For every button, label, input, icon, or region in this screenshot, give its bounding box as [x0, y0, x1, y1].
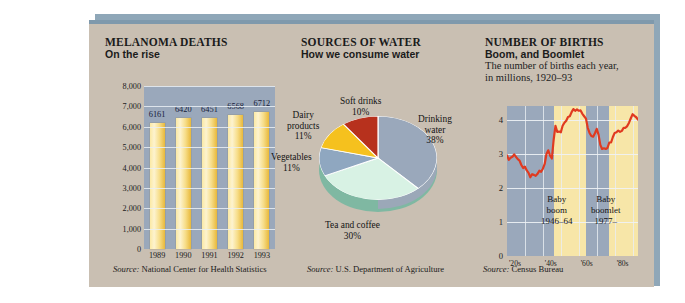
water-label-tea-coffee: Tea and coffee 30% — [325, 220, 380, 241]
births-annotation-baby-boomlet: Baby boomlet 1977– — [591, 194, 621, 227]
births-y-tick: 2 — [481, 183, 503, 193]
water-title: SOURCES OF WATER — [301, 36, 421, 48]
melanoma-bar-chart: 61616420645165686712 01,0002,0003,0004,0… — [103, 78, 279, 264]
water-value-drinking-water: 38% — [426, 135, 443, 145]
melanoma-bar-value: 6161 — [149, 110, 166, 119]
infographic-panel: MELANOMA DEATHS On the rise 616164206451… — [89, 20, 654, 287]
melanoma-y-tick: 6,000 — [103, 122, 141, 131]
melanoma-y-tick: 1,000 — [103, 224, 141, 233]
births-description-line2: in millions, 1920–93 — [485, 72, 619, 84]
births-x-tick: '60s — [581, 259, 593, 268]
births-line-chart: Baby boom 1946–64 Baby boomlet 1977– 012… — [481, 102, 649, 268]
melanoma-x-tick: 1992 — [227, 251, 243, 260]
melanoma-gridline — [144, 168, 275, 169]
melanoma-subtitle: On the rise — [105, 48, 228, 60]
water-label-soft-drinks: Soft drinks 10% — [340, 96, 381, 117]
births-line-svg — [507, 106, 638, 256]
panel-number-of-births: NUMBER OF BIRTHS Boom, and Boomlet The n… — [471, 24, 654, 287]
melanoma-y-tick: 4,000 — [103, 163, 141, 172]
melanoma-x-tick: 1990 — [175, 251, 191, 260]
melanoma-y-tick: 0 — [103, 245, 141, 254]
melanoma-gridline — [144, 229, 275, 230]
births-plot-area: Baby boom 1946–64 Baby boomlet 1977– — [507, 106, 638, 256]
water-source-text: U.S. Department of Agriculture — [336, 264, 445, 274]
melanoma-y-tick: 7,000 — [103, 102, 141, 111]
melanoma-gridline — [144, 147, 275, 148]
water-label-tea-coffee-text: Tea and coffee — [325, 220, 380, 230]
baby-boomlet-line2: boomlet — [591, 205, 621, 215]
births-y-tick: 3 — [481, 149, 503, 159]
melanoma-x-tick: 1991 — [201, 251, 217, 260]
water-label-drinking-water: Drinkingwater 38% — [418, 114, 452, 146]
melanoma-x-tick: 1989 — [149, 251, 165, 260]
births-source-text: Census Bureau — [512, 264, 564, 274]
births-y-tick: 1 — [481, 217, 503, 227]
melanoma-gridline — [144, 106, 275, 107]
births-line-path — [507, 109, 638, 177]
water-value-vegetables: 11% — [283, 163, 300, 173]
births-title: NUMBER OF BIRTHS — [485, 36, 619, 48]
melanoma-gridline — [144, 188, 275, 189]
water-subtitle: How we consume water — [301, 48, 421, 60]
melanoma-source-prefix: Source: — [113, 264, 139, 274]
births-description-line1: The number of births each year, — [485, 60, 619, 72]
melanoma-y-tick: 8,000 — [103, 82, 141, 91]
water-source-prefix: Source: — [307, 264, 333, 274]
melanoma-source: Source: National Center for Health Stati… — [113, 264, 267, 274]
melanoma-y-tick: 3,000 — [103, 183, 141, 192]
births-header: NUMBER OF BIRTHS Boom, and Boomlet The n… — [485, 36, 619, 85]
baby-boomlet-line1: Baby — [596, 194, 615, 204]
panel-melanoma-deaths: MELANOMA DEATHS On the rise 616164206451… — [89, 24, 285, 287]
melanoma-gridline — [144, 86, 275, 87]
baby-boom-line3: 1946–64 — [541, 216, 573, 226]
melanoma-source-text: National Center for Health Statistics — [142, 264, 267, 274]
panel-sources-of-water: SOURCES OF WATER How we consume water So… — [285, 24, 471, 287]
births-source: Source: Census Bureau — [483, 264, 563, 274]
baby-boom-line1: Baby — [547, 194, 566, 204]
births-subtitle: Boom, and Boomlet — [485, 48, 619, 60]
melanoma-header: MELANOMA DEATHS On the rise — [105, 36, 228, 60]
baby-boom-line2: boom — [546, 205, 567, 215]
melanoma-title: MELANOMA DEATHS — [105, 36, 228, 48]
water-label-vegetables: Vegetables 11% — [271, 152, 312, 173]
melanoma-y-tick: 5,000 — [103, 143, 141, 152]
water-value-soft-drinks: 10% — [352, 107, 369, 117]
water-header: SOURCES OF WATER How we consume water — [301, 36, 421, 60]
water-label-vegetables-text: Vegetables — [271, 152, 312, 162]
water-pie-chart: Soft drinks 10% Dairyproducts 11% Vegeta… — [285, 94, 471, 244]
melanoma-x-axis: 19891990199119921993 — [144, 251, 275, 260]
melanoma-gridline — [144, 127, 275, 128]
infographic-page: MELANOMA DEATHS On the rise 616164206451… — [0, 0, 685, 303]
melanoma-y-tick: 2,000 — [103, 204, 141, 213]
births-y-tick: 0 — [481, 251, 503, 261]
water-label-soft-drinks-text: Soft drinks — [340, 96, 381, 106]
water-source: Source: U.S. Department of Agriculture — [307, 264, 444, 274]
births-source-prefix: Source: — [483, 264, 509, 274]
melanoma-gridline — [144, 208, 275, 209]
births-annotation-baby-boom: Baby boom 1946–64 — [541, 194, 573, 227]
melanoma-x-tick: 1993 — [254, 251, 270, 260]
water-value-tea-coffee: 30% — [344, 231, 361, 241]
panel-background: MELANOMA DEATHS On the rise 616164206451… — [89, 24, 654, 287]
melanoma-bar: 6161 — [150, 123, 165, 249]
births-y-tick: 4 — [481, 115, 503, 125]
births-x-tick: '80s — [617, 259, 629, 268]
baby-boomlet-line3: 1977– — [595, 216, 618, 226]
water-value-dairy: 11% — [295, 131, 312, 141]
water-label-dairy: Dairyproducts 11% — [287, 110, 319, 142]
